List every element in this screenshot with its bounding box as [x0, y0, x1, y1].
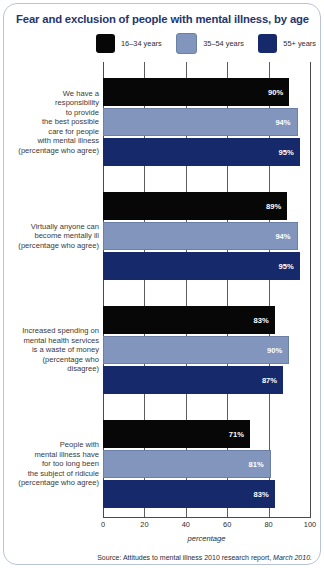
category-label-line: (percentage who — [3, 355, 99, 365]
legend-item-0: 16–34 years — [96, 34, 162, 53]
legend-label: 55+ years — [283, 39, 316, 48]
bar-1-0: 89% — [103, 192, 287, 220]
category-label-line: mental health services — [3, 336, 99, 346]
bar-value-label: 95% — [278, 148, 299, 157]
category-label-line: care for people — [3, 127, 99, 137]
category-label-line: (percentage who agree) — [3, 146, 99, 156]
legend-label: 16–34 years — [121, 39, 162, 48]
chart-card: Fear and exclusion of people with mental… — [0, 0, 324, 568]
plot-area: 90%94%95%89%94%95%83%90%87%71%81%83% — [103, 62, 310, 518]
legend-swatch-icon — [96, 34, 115, 53]
bar-2-1: 90% — [103, 336, 289, 364]
bar-value-label: 87% — [262, 376, 283, 385]
category-label-line: disagree) — [3, 364, 99, 374]
category-label-line: for too long been — [3, 459, 99, 469]
category-label-line: (percentage who agree) — [3, 478, 99, 488]
source-text: Source: Attitudes to mental illness 2010… — [97, 554, 273, 561]
category-label-line: Increased spending on — [3, 326, 99, 336]
category-label-column: We have aresponsibilityto providethe bes… — [0, 62, 99, 518]
bar-value-label: 94% — [275, 118, 296, 127]
category-label-line: is a waste of money — [3, 345, 99, 355]
category-label-line: We have a — [3, 89, 99, 99]
x-tick-20: 20 — [140, 520, 148, 529]
bar-group-3: 71%81%83% — [103, 420, 310, 510]
bar-1-1: 94% — [103, 222, 298, 250]
bar-row: 83% — [103, 480, 310, 508]
x-tick-0: 0 — [101, 520, 105, 529]
category-label-2: Increased spending onmental health servi… — [3, 326, 99, 374]
bar-row: 94% — [103, 222, 310, 250]
bar-row: 90% — [103, 336, 310, 364]
bar-row: 95% — [103, 252, 310, 280]
category-label-line: responsibility — [3, 98, 99, 108]
bar-1-2: 95% — [103, 252, 300, 280]
bar-row: 87% — [103, 366, 310, 394]
bar-group-1: 89%94%95% — [103, 192, 310, 282]
bar-group-2: 83%90%87% — [103, 306, 310, 396]
x-tick-100: 100 — [304, 520, 316, 529]
category-label-1: Virtually anyone canbecome mentally ill(… — [3, 222, 99, 251]
bar-value-label: 83% — [254, 490, 275, 499]
chart-legend: 16–34 years35–54 years55+ years — [96, 32, 316, 54]
bar-2-0: 83% — [103, 306, 275, 334]
bar-value-label: 71% — [229, 430, 250, 439]
category-label-line: People with — [3, 440, 99, 450]
gridline-100 — [310, 62, 311, 518]
category-label-line: to provide — [3, 108, 99, 118]
bar-value-label: 81% — [248, 460, 269, 469]
bar-0-1: 94% — [103, 108, 298, 136]
source-date: March 2010. — [273, 554, 312, 561]
x-tick-40: 40 — [182, 520, 190, 529]
bar-value-label: 90% — [268, 88, 289, 97]
bar-row: 89% — [103, 192, 310, 220]
x-axis-label: percentage — [103, 534, 310, 543]
category-label-line: Virtually anyone can — [3, 222, 99, 232]
legend-item-1: 35–54 years — [176, 33, 244, 54]
category-label-3: People withmental illness havefor too lo… — [3, 440, 99, 488]
category-label-line: with mental illness — [3, 136, 99, 146]
legend-label: 35–54 years — [203, 39, 244, 48]
bar-value-label: 95% — [278, 262, 299, 271]
category-label-0: We have aresponsibilityto providethe bes… — [3, 89, 99, 156]
bar-0-2: 95% — [103, 138, 300, 166]
bar-row: 90% — [103, 78, 310, 106]
bar-row: 83% — [103, 306, 310, 334]
bar-value-label: 89% — [266, 202, 287, 211]
x-tick-60: 60 — [223, 520, 231, 529]
bar-0-0: 90% — [103, 78, 289, 106]
page-title: Fear and exclusion of people with mental… — [16, 13, 312, 26]
x-axis-line — [103, 517, 310, 518]
x-tick-80: 80 — [264, 520, 272, 529]
legend-swatch-icon — [176, 33, 197, 54]
x-axis-ticks: 020406080100 — [103, 520, 310, 532]
bar-3-0: 71% — [103, 420, 250, 448]
category-label-line: the best possible — [3, 117, 99, 127]
bar-3-1: 81% — [103, 450, 271, 478]
category-label-line: the subject of ridicule — [3, 469, 99, 479]
bar-row: 94% — [103, 108, 310, 136]
bar-value-label: 90% — [267, 346, 288, 355]
legend-swatch-icon — [258, 34, 277, 53]
bar-row: 95% — [103, 138, 310, 166]
bar-row: 71% — [103, 420, 310, 448]
bar-2-2: 87% — [103, 366, 283, 394]
category-label-line: (percentage who agree) — [3, 241, 99, 251]
category-label-line: become mentally ill — [3, 231, 99, 241]
bar-group-0: 90%94%95% — [103, 78, 310, 168]
bar-value-label: 94% — [275, 232, 296, 241]
bar-row: 81% — [103, 450, 310, 478]
source-note: Source: Attitudes to mental illness 2010… — [12, 554, 312, 561]
legend-item-2: 55+ years — [258, 34, 316, 53]
bar-3-2: 83% — [103, 480, 275, 508]
category-label-line: mental illness have — [3, 450, 99, 460]
bar-value-label: 83% — [254, 316, 275, 325]
